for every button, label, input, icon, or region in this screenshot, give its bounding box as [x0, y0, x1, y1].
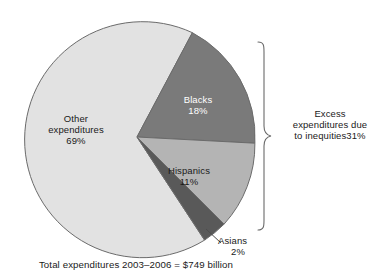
slice-label-blacks-percent: 18%	[163, 105, 233, 116]
chart-caption: Total expenditures 2003–2006 = $749 bill…	[6, 259, 266, 270]
slice-label-asians-text: Asians	[218, 235, 247, 246]
slice-label-blacks: Blacks18%	[163, 94, 233, 116]
slice-label-other-expenditures-percent: 69%	[24, 135, 128, 146]
excess-expenditures-percent: 31%	[346, 130, 365, 141]
excess-expenditures-annotation: Excess expenditures due to inequities31%	[283, 108, 377, 142]
slice-label-asians: Asians2%	[218, 235, 280, 257]
slice-label-blacks-text: Blacks	[184, 94, 213, 105]
slice-label-other-expenditures-text: Other expenditures	[48, 113, 104, 135]
excess-bracket-icon	[258, 42, 271, 230]
pie-chart-figure: Other expenditures69% Blacks18% Hispanic…	[0, 0, 379, 277]
slice-label-asians-percent: 2%	[218, 246, 258, 257]
slice-label-hispanics-text: Hispanics	[168, 165, 210, 176]
slice-label-other-expenditures: Other expenditures69%	[24, 113, 128, 147]
slice-label-hispanics-percent: 11%	[148, 176, 230, 187]
slice-label-hispanics: Hispanics11%	[148, 165, 230, 187]
